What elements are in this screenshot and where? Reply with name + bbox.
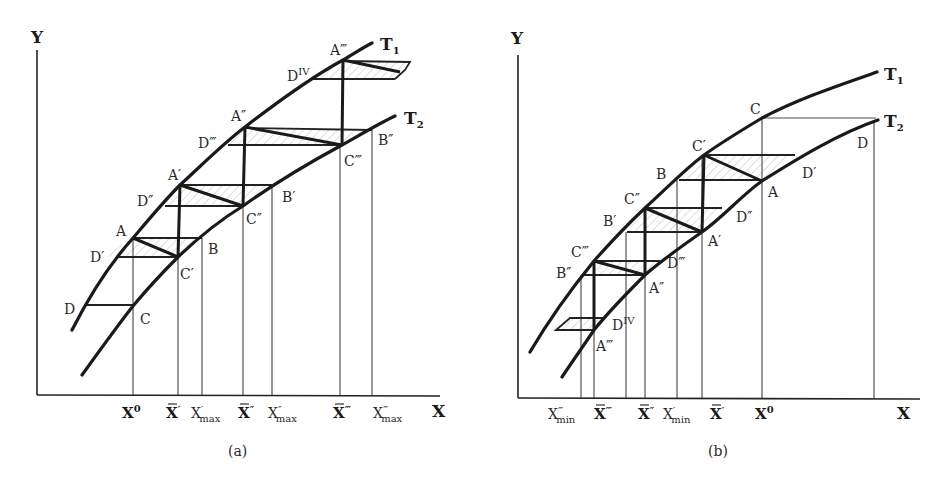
vert-C1-A1 (702, 155, 704, 232)
x-axis-label: X (432, 401, 446, 421)
vert-A-C1 (178, 185, 180, 257)
point-B1: B′ (282, 189, 295, 205)
point-A3-b: A‴ (595, 338, 613, 354)
point-C2: C″ (246, 211, 262, 227)
point-D2: D″ (137, 193, 153, 209)
panel-a: Y X T1 T2 A A′ A″ A‴ B B′ B″ C C′ C″ C‴ … (30, 27, 446, 459)
tick-xmin3: X‴min (548, 405, 576, 425)
x-tick-labels-b: X‴min X‴ X″ X′min X′ X0 (548, 404, 774, 425)
tick-x0-b: X0 (755, 404, 774, 423)
point-D: D (64, 301, 75, 317)
x-axis-b (518, 398, 920, 399)
tick-xbar1-b: X′ (710, 405, 725, 423)
tick-xmax2: X″max (268, 404, 297, 424)
point-A2: A″ (230, 108, 246, 124)
tick-x0: X0 (122, 403, 141, 422)
point-A: A (115, 223, 127, 239)
point-C3: C‴ (344, 153, 362, 169)
point-A-b: A (767, 184, 779, 200)
tick-xmin1: X′min (663, 405, 691, 425)
point-D1: D′ (90, 249, 104, 265)
vert-A3-C3 (342, 60, 343, 145)
point-D2-b: D″ (736, 209, 752, 225)
point-B-b: B (656, 166, 666, 182)
point-C1: C′ (180, 266, 194, 282)
point-B2: B″ (378, 132, 394, 148)
y-axis-label: Y (30, 27, 44, 47)
point-C2-b: C″ (624, 191, 640, 207)
tick-xbar1: X′ (166, 404, 181, 422)
x-tick-labels-a: X0 X′ X′max X″ X″max X‴ X‴max (122, 403, 403, 424)
x-axis (37, 395, 440, 396)
tick-xmax3: X‴max (373, 404, 403, 424)
point-A3: A‴ (329, 42, 347, 58)
point-C-b: C (750, 101, 761, 117)
point-D3-b: D‴ (667, 255, 686, 271)
point-B: B (208, 241, 218, 257)
panel-a-caption: (a) (228, 443, 247, 459)
point-D3: D‴ (198, 135, 217, 151)
hatch-region-b1 (679, 155, 795, 181)
point-D4-b: DIV (612, 315, 635, 333)
point-B2-b: B″ (556, 265, 572, 281)
point-A2-b: A″ (648, 280, 664, 296)
point-A1-b: A′ (707, 233, 721, 249)
tick-xbar3-b: X‴ (594, 405, 613, 423)
point-B1-b: B′ (603, 213, 616, 229)
panel-b: Y X T1 T2 A A′ A″ A‴ B B′ B″ C C′ C″ C‴ … (510, 28, 920, 459)
point-C1-b: C′ (692, 138, 706, 154)
curve-T2-label-b: T2 (884, 111, 904, 133)
curve-T1-label-b: T1 (884, 64, 904, 86)
point-D-b: D (857, 135, 868, 151)
point-D1-b: D′ (802, 165, 816, 181)
point-A1: A′ (167, 167, 181, 183)
tick-xmax1: X′max (191, 404, 221, 424)
x-axis-label-b: X (897, 403, 911, 423)
figure-canvas: Y X T1 T2 A A′ A″ A‴ B B′ B″ C C′ C″ C‴ … (0, 0, 932, 491)
vert-A2-C2 (243, 127, 245, 206)
point-C3-b: C‴ (571, 244, 589, 260)
tick-xbar3: X‴ (333, 404, 352, 422)
point-C: C (140, 311, 151, 327)
curve-T2-label: T2 (404, 108, 424, 130)
panel-b-caption: (b) (708, 443, 728, 459)
tick-xbar2-b: X″ (638, 405, 655, 423)
curve-T1-label: T1 (380, 34, 400, 56)
y-axis-label-b: Y (510, 28, 524, 48)
tick-xbar2: X″ (238, 404, 255, 422)
